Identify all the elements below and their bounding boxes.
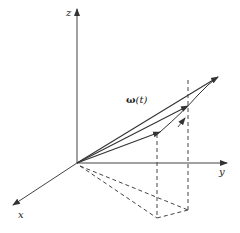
dashed-floor-3 <box>157 210 188 218</box>
omega-label: ω(t) <box>126 95 147 105</box>
omega-vector-main <box>77 77 218 163</box>
omega-vector-low <box>77 132 160 163</box>
dashed-floor-2 <box>80 166 188 210</box>
omega-argument: (t) <box>136 94 148 105</box>
omega-symbol: ω <box>126 94 136 105</box>
x-axis-label: x <box>18 210 24 220</box>
direction-arrow <box>178 118 185 127</box>
y-axis-label: y <box>219 167 225 177</box>
omega-vector-mid <box>77 106 188 163</box>
dashed-floor-1 <box>80 166 157 218</box>
z-axis-label: z <box>66 8 71 18</box>
trajectory-curve <box>160 77 218 132</box>
x-axis <box>13 163 77 205</box>
vector-diagram <box>0 0 240 233</box>
diagram-canvas: z y x ω(t) <box>0 0 240 233</box>
